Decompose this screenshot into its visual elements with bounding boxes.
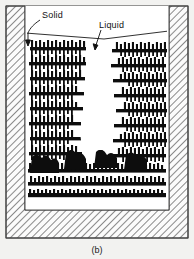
figure-panel: Solid Liquid (b) <box>0 0 194 259</box>
figure-caption: (b) <box>92 245 103 255</box>
label-liquid: Liquid <box>99 20 124 30</box>
label-solid: Solid <box>42 10 63 20</box>
solidification-diagram: Solid Liquid (b) <box>0 0 194 259</box>
